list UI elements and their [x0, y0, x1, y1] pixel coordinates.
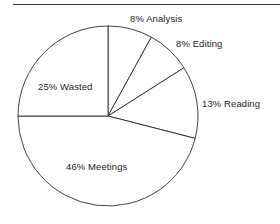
slice-label-analysis: 8% Analysis	[130, 13, 182, 24]
slice-label-reading: 13% Reading	[202, 98, 260, 109]
slice-label-editing: 8% Editing	[176, 38, 222, 49]
pie-slice-wasted	[18, 26, 108, 116]
slice-label-meetings: 46% Meetings	[66, 161, 127, 172]
pie-slices-group	[18, 26, 198, 206]
pie-chart-figure: 8% Analysis 8% Editing 13% Reading 25% W…	[0, 0, 280, 224]
slice-label-wasted: 25% Wasted	[38, 81, 93, 92]
pie-chart-canvas	[0, 0, 280, 224]
